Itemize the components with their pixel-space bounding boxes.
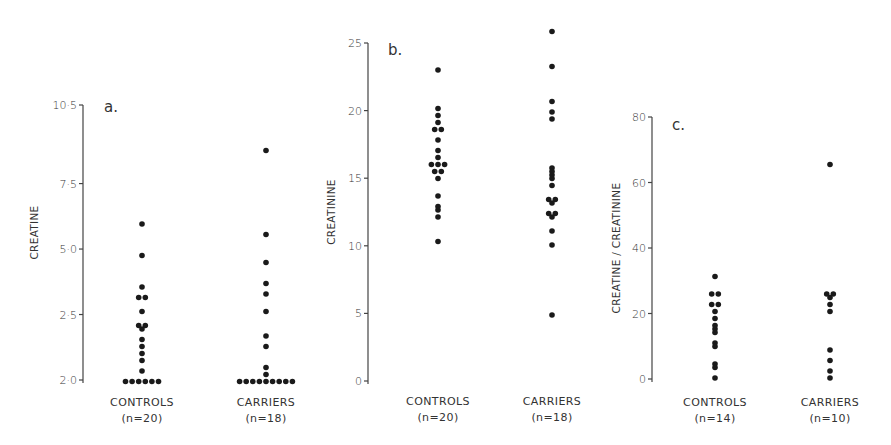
data-point bbox=[270, 379, 276, 385]
data-point bbox=[263, 372, 269, 378]
data-point bbox=[553, 197, 559, 203]
data-point bbox=[712, 323, 718, 329]
data-point bbox=[827, 347, 833, 353]
data-point bbox=[435, 113, 441, 119]
data-point bbox=[139, 344, 145, 350]
y-tick-label: 5·0 bbox=[60, 243, 78, 256]
y-tick-label: 10 bbox=[348, 240, 362, 253]
data-point bbox=[546, 197, 552, 203]
data-point bbox=[156, 379, 162, 385]
data-point bbox=[290, 379, 296, 385]
data-point bbox=[549, 169, 555, 175]
y-axis-title: CREATINE bbox=[28, 205, 40, 259]
data-point bbox=[549, 109, 555, 115]
panel-c: 806040200CREATINE / CREATININEc.CONTROLS… bbox=[610, 111, 859, 425]
data-point bbox=[712, 309, 718, 315]
data-point bbox=[827, 368, 833, 374]
data-point bbox=[549, 64, 555, 70]
y-tick-label: 10·5 bbox=[53, 99, 78, 112]
data-point bbox=[143, 295, 149, 301]
data-point bbox=[263, 344, 269, 350]
y-tick-label: 0 bbox=[639, 373, 646, 386]
data-point bbox=[435, 193, 441, 199]
data-point bbox=[136, 295, 142, 301]
data-point bbox=[546, 211, 552, 217]
group-n-label: (n=14) bbox=[694, 412, 735, 425]
data-point bbox=[716, 302, 722, 308]
data-point bbox=[712, 330, 718, 336]
data-point bbox=[139, 358, 145, 364]
y-tick-label: 20 bbox=[348, 105, 362, 118]
data-point bbox=[435, 120, 441, 126]
data-point bbox=[283, 379, 289, 385]
data-point bbox=[250, 379, 256, 385]
data-point bbox=[827, 162, 833, 168]
data-point bbox=[712, 365, 718, 371]
data-point bbox=[439, 127, 445, 133]
y-axis-title: CREATINE / CREATININE bbox=[610, 183, 622, 314]
three-panel-dot-plot: 10·57·55·02·52·0CREATINEa.CONTROLS(n=20)… bbox=[0, 0, 891, 445]
data-point bbox=[129, 379, 135, 385]
data-point bbox=[263, 291, 269, 297]
data-point bbox=[143, 323, 149, 329]
y-tick-label: 20 bbox=[632, 308, 646, 321]
data-point bbox=[139, 221, 145, 227]
data-point bbox=[432, 169, 438, 175]
data-point bbox=[263, 148, 269, 154]
data-point bbox=[549, 242, 555, 248]
data-point bbox=[549, 183, 555, 189]
data-point bbox=[435, 155, 441, 161]
figure: 10·57·55·02·52·0CREATINEa.CONTROLS(n=20)… bbox=[0, 0, 891, 445]
data-point bbox=[827, 295, 833, 301]
data-point bbox=[237, 379, 243, 385]
data-point bbox=[139, 284, 145, 290]
data-point bbox=[263, 260, 269, 266]
data-point bbox=[435, 106, 441, 112]
data-point bbox=[827, 302, 833, 308]
y-tick-label: 2·0 bbox=[60, 374, 78, 387]
data-point bbox=[435, 148, 441, 154]
data-point bbox=[435, 162, 441, 168]
data-point bbox=[136, 379, 142, 385]
panel-letter: c. bbox=[672, 116, 685, 134]
data-point bbox=[712, 344, 718, 350]
data-point bbox=[549, 116, 555, 122]
data-point bbox=[712, 375, 718, 381]
data-point bbox=[139, 351, 145, 357]
data-point bbox=[136, 323, 142, 329]
data-point bbox=[123, 379, 129, 385]
y-tick-label: 40 bbox=[632, 242, 646, 255]
group-label: CARRIERS bbox=[237, 396, 296, 409]
data-point bbox=[827, 375, 833, 381]
data-point bbox=[435, 204, 441, 210]
data-point bbox=[553, 211, 559, 217]
data-point bbox=[263, 333, 269, 339]
data-point bbox=[435, 176, 441, 182]
panel-letter: b. bbox=[388, 41, 402, 59]
data-point bbox=[827, 309, 833, 315]
data-point bbox=[549, 29, 555, 35]
y-axis-title: CREATININE bbox=[325, 179, 337, 245]
data-point bbox=[827, 358, 833, 364]
data-point bbox=[549, 99, 555, 105]
data-point bbox=[263, 309, 269, 315]
y-tick-label: 80 bbox=[632, 111, 646, 124]
group-n-label: (n=10) bbox=[809, 412, 850, 425]
panel-b: 2520151050CREATININEb.CONTROLS(n=20)CARR… bbox=[325, 29, 581, 424]
data-point bbox=[716, 291, 722, 297]
y-tick-label: 60 bbox=[632, 177, 646, 190]
group-label: CONTROLS bbox=[110, 396, 174, 409]
data-point bbox=[709, 302, 715, 308]
group-label: CONTROLS bbox=[406, 395, 470, 408]
data-point bbox=[276, 379, 282, 385]
data-point bbox=[143, 379, 149, 385]
y-tick-label: 5 bbox=[355, 307, 362, 320]
data-point bbox=[549, 228, 555, 234]
group-label: CARRIERS bbox=[523, 395, 582, 408]
y-tick-label: 7·5 bbox=[60, 178, 78, 191]
data-point bbox=[263, 365, 269, 371]
group-n-label: (n=18) bbox=[245, 412, 286, 425]
data-point bbox=[139, 309, 145, 315]
panel-letter: a. bbox=[104, 98, 118, 116]
data-point bbox=[432, 127, 438, 133]
